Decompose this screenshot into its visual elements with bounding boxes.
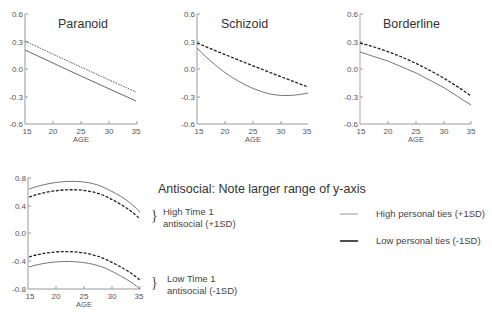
x-tick: 35 xyxy=(303,127,312,136)
x-tick: 20 xyxy=(384,127,393,136)
y-tick: 0.6 xyxy=(347,10,359,19)
x-axis-label: AGE xyxy=(245,135,261,144)
y-tick: -0.4 xyxy=(12,257,26,266)
chart-antisocial: 0.8 0.4 0.0 -0.4 -0.8 15 20 25 30 35 AGE… xyxy=(12,174,366,309)
y-tick: -0.3 xyxy=(344,93,358,102)
chart-paranoid: 0.6 0.3 0.0 -0.3 -0.6 15 20 25 30 35 AGE… xyxy=(9,10,141,144)
y-tick: 0.0 xyxy=(12,65,24,74)
y-tick: 0.8 xyxy=(15,174,27,183)
series-low-ties xyxy=(360,43,471,96)
figure: 0.6 0.3 0.0 -0.3 -0.6 15 20 25 30 35 AGE… xyxy=(0,0,492,316)
x-tick: 30 xyxy=(440,127,449,136)
x-tick: 20 xyxy=(52,292,61,301)
y-tick: -0.6 xyxy=(181,120,195,129)
chart-title: Borderline xyxy=(383,17,440,31)
x-tick: 35 xyxy=(135,292,144,301)
annotation-high-antisocial: High Time 1 xyxy=(163,206,214,217)
y-tick: 0.6 xyxy=(184,10,196,19)
series-low-antisocial-low-ties xyxy=(29,252,140,280)
series-high-antisocial-low-ties xyxy=(29,190,140,219)
x-axis-label: AGE xyxy=(73,135,89,144)
y-tick: 0.6 xyxy=(12,10,24,19)
x-tick: 30 xyxy=(105,127,114,136)
y-tick: 0.3 xyxy=(12,38,24,47)
x-tick: 30 xyxy=(108,292,117,301)
series-high-antisocial-high-ties xyxy=(29,181,140,212)
x-tick: 20 xyxy=(49,127,58,136)
x-tick: 35 xyxy=(467,127,476,136)
legend-low-ties: Low personal ties (-1SD) xyxy=(376,235,481,246)
y-tick: 0.3 xyxy=(347,38,359,47)
series-low-ties xyxy=(197,43,308,87)
series-low-ties xyxy=(25,41,136,92)
x-tick: 15 xyxy=(195,127,204,136)
chart-borderline: 0.6 0.3 0.0 -0.3 -0.6 15 20 25 30 35 AGE… xyxy=(344,10,476,144)
y-tick: 0.0 xyxy=(184,65,196,74)
annotation-high-antisocial: antisocial (+1SD) xyxy=(163,218,236,229)
y-tick: -0.8 xyxy=(12,285,26,294)
y-tick: 0.3 xyxy=(184,38,196,47)
y-tick: -0.3 xyxy=(9,93,23,102)
x-tick: 15 xyxy=(23,127,32,136)
y-tick: 0.0 xyxy=(15,229,27,238)
brace-icon: } xyxy=(151,208,158,223)
x-tick: 35 xyxy=(132,127,141,136)
series-high-ties xyxy=(25,50,136,101)
chart-schizoid: 0.6 0.3 0.0 -0.3 -0.6 15 20 25 30 35 AGE… xyxy=(181,10,312,144)
chart-title: Paranoid xyxy=(58,17,108,31)
x-axis-label: AGE xyxy=(76,300,92,309)
x-axis-label: AGE xyxy=(408,135,424,144)
y-tick: 0.4 xyxy=(15,202,27,211)
x-tick: 15 xyxy=(357,127,366,136)
y-tick: 0.0 xyxy=(347,65,359,74)
legend: High personal ties (+1SD) Low personal t… xyxy=(340,208,485,246)
brace-icon: } xyxy=(151,275,158,290)
y-tick: -0.6 xyxy=(9,120,23,129)
series-low-antisocial-high-ties xyxy=(29,261,140,289)
legend-high-ties: High personal ties (+1SD) xyxy=(376,208,485,219)
series-high-ties xyxy=(360,52,471,105)
x-tick: 15 xyxy=(26,292,35,301)
x-tick: 30 xyxy=(277,127,286,136)
series-high-ties xyxy=(197,48,308,96)
chart-title: Schizoid xyxy=(221,17,268,31)
y-tick: -0.3 xyxy=(181,93,195,102)
annotation-low-antisocial: antisocial (-1SD) xyxy=(167,285,237,296)
chart-title: Antisocial: Note larger range of y-axis xyxy=(158,182,366,196)
annotation-low-antisocial: Low Time 1 xyxy=(167,273,216,284)
x-tick: 20 xyxy=(221,127,230,136)
